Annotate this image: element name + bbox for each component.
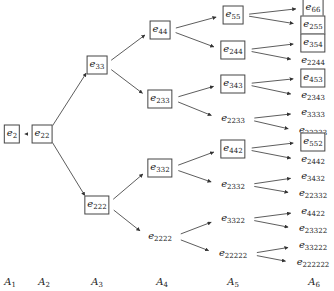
node-subscript: 23322 <box>305 227 327 235</box>
node-e354: e354 <box>300 34 325 53</box>
edge-arrow-e33-e233 <box>111 70 142 94</box>
edge-arrow-e22222-e33222 <box>257 247 288 252</box>
level-label-A6: A6 <box>308 276 320 289</box>
node-subscript: 2442 <box>307 158 325 166</box>
node-subscript: 453 <box>309 76 322 84</box>
node-e3322: e3322 <box>219 211 247 228</box>
edge-arrow-e332-e442 <box>178 152 214 165</box>
level-label-A1: A1 <box>4 276 16 289</box>
node-subscript: 255 <box>309 23 322 31</box>
node-subscript: 2233 <box>227 117 245 125</box>
node-subscript: 66 <box>312 6 321 14</box>
node-e23322: e23322 <box>297 221 329 238</box>
node-e3333: e3333 <box>299 105 327 122</box>
node-e2332: e2332 <box>219 177 247 194</box>
node-subscript: 3333 <box>307 111 325 119</box>
edge-arrow-e55-e66 <box>249 9 296 14</box>
edge-arrow-e2332-e3432 <box>254 178 290 183</box>
edge-arrow-e2222-e3322 <box>181 222 211 234</box>
node-subscript: 3432 <box>307 175 325 183</box>
edge-arrow-e3322-e4422 <box>254 213 290 218</box>
node-subscript: 244 <box>229 48 242 56</box>
node-e2: e2 <box>4 125 20 144</box>
node-subscript: 354 <box>309 41 322 49</box>
node-e222: e222 <box>84 196 109 215</box>
node-e2233: e2233 <box>219 111 247 128</box>
node-e244: e244 <box>220 41 245 60</box>
edge-arrow-e2332-e22332 <box>254 186 288 192</box>
node-subscript: 233 <box>156 97 169 105</box>
node-subscript: 55 <box>232 13 241 21</box>
edge-arrow-e2233-e3333 <box>254 114 290 118</box>
level-label-A4: A4 <box>156 276 168 289</box>
level-subscript: 1 <box>11 281 15 289</box>
node-e33: e33 <box>87 56 108 75</box>
node-e255: e255 <box>300 16 325 35</box>
edge-arrow-e332-e2332 <box>178 171 211 182</box>
node-e22222: e22222 <box>217 246 249 263</box>
node-subscript: 2222 <box>154 235 172 243</box>
node-subscript: 222222 <box>303 261 330 269</box>
node-subscript: 332 <box>156 166 169 174</box>
node-e442: e442 <box>220 140 245 159</box>
edge-arrow-e343-e2343 <box>252 86 291 94</box>
node-subscript: 4422 <box>307 210 325 218</box>
node-subscript: 33222 <box>305 244 327 252</box>
level-subscript: 5 <box>234 281 238 289</box>
level-subscript: 2 <box>45 281 49 289</box>
node-subscript: 33 <box>96 63 105 71</box>
edge-arrow-e233-e2233 <box>178 102 211 115</box>
node-subscript: 22 <box>41 132 50 140</box>
level-label-A5: A5 <box>227 276 239 289</box>
edge-arrow-e244-e354 <box>252 44 294 49</box>
node-e332: e332 <box>147 159 172 178</box>
edge-arrow-e442-e552 <box>252 143 294 148</box>
node-subscript: 3322 <box>227 217 245 225</box>
edge-arrow-e22-e222 <box>52 142 85 196</box>
node-e343: e343 <box>220 75 245 94</box>
node-e3432: e3432 <box>299 169 327 186</box>
node-e2222: e2222 <box>146 229 174 246</box>
node-e44: e44 <box>150 21 171 40</box>
node-subscript: 442 <box>229 147 242 155</box>
node-subscript: 343 <box>229 82 242 90</box>
node-e233: e233 <box>147 90 172 109</box>
edge-arrow-e33-e44 <box>111 35 145 60</box>
node-subscript: 2332 <box>227 183 245 191</box>
edge-arrow-e222-e332 <box>113 174 143 199</box>
node-e33222: e33222 <box>297 238 329 255</box>
level-label-A2: A2 <box>38 276 50 289</box>
node-e222222: e222222 <box>295 255 332 272</box>
edge-arrow-e442-e2442 <box>252 151 291 159</box>
node-subscript: 22332 <box>305 192 327 200</box>
node-e2244: e2244 <box>299 53 327 70</box>
edge-arrow-e2222-e22222 <box>181 240 209 251</box>
level-subscript: 4 <box>163 281 167 289</box>
node-e2343: e2343 <box>299 88 327 105</box>
edge-arrow-e2233-e22233 <box>254 121 288 129</box>
edge-arrow-e3322-e23322 <box>254 221 288 228</box>
edge-arrow-e44-e244 <box>176 33 214 47</box>
edge-arrow-e244-e2244 <box>252 52 291 60</box>
node-subscript: 2343 <box>307 94 325 102</box>
node-e22332: e22332 <box>297 186 329 203</box>
node-subscript: 552 <box>309 140 322 148</box>
node-subscript: 22222 <box>225 252 247 260</box>
edge-arrow-e44-e55 <box>176 17 216 28</box>
edge-arrow-e343-e453 <box>252 79 294 83</box>
edge-arrow-e222-e2222 <box>114 210 140 231</box>
node-subscript: 2244 <box>307 59 325 67</box>
edge-layer <box>0 0 334 291</box>
node-e55: e55 <box>223 6 244 25</box>
edge-arrow-e22222-e222222 <box>257 256 286 262</box>
edge-arrow-e233-e343 <box>178 86 213 96</box>
level-subscript: 3 <box>98 281 102 289</box>
node-e22: e22 <box>32 125 53 144</box>
level-subscript: 6 <box>315 281 319 289</box>
node-e2442: e2442 <box>299 152 327 169</box>
level-label-A3: A3 <box>91 276 103 289</box>
node-e4422: e4422 <box>299 204 327 221</box>
edge-arrow-e55-e255 <box>249 16 293 23</box>
node-e453: e453 <box>300 69 325 88</box>
node-subscript: 2 <box>13 132 17 140</box>
